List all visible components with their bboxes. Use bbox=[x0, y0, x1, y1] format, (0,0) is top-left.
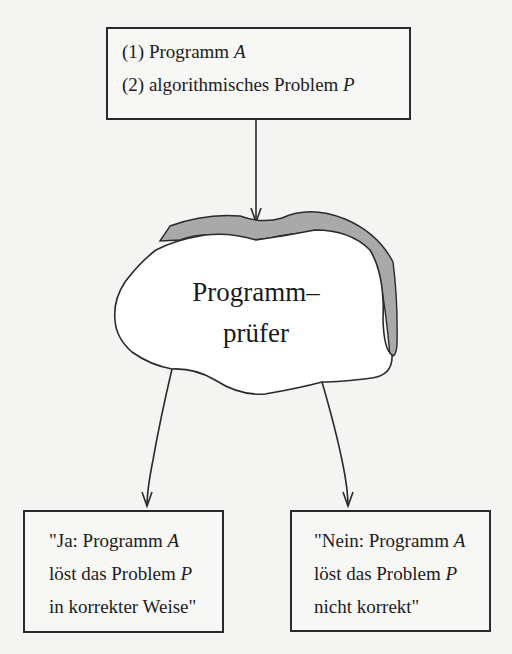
yes-line-2-text: löst das Problem bbox=[49, 563, 180, 584]
input-line-program-text: (1) Programm bbox=[122, 41, 234, 62]
checker-label-line2: prüfer bbox=[150, 313, 362, 353]
no-line-2: löst das Problem P bbox=[314, 557, 489, 590]
no-result-box: "Nein: Programm A löst das Problem P nic… bbox=[290, 510, 491, 632]
variable-p: P bbox=[180, 563, 192, 584]
variable-a: A bbox=[234, 41, 246, 62]
no-line-1-text: "Nein: Programm bbox=[314, 530, 454, 551]
yes-result-box: "Ja: Programm A löst das Problem P in ko… bbox=[23, 510, 224, 633]
input-line-problem: (2) algorithmisches Problem P bbox=[122, 68, 409, 101]
variable-p: P bbox=[445, 563, 457, 584]
arrow-checker-to-no bbox=[322, 382, 353, 506]
no-line-2-text: löst das Problem bbox=[314, 563, 445, 584]
input-line-problem-text: (2) algorithmisches Problem bbox=[122, 74, 343, 95]
no-line-1: "Nein: Programm A bbox=[314, 524, 489, 557]
yes-line-2: löst das Problem P bbox=[49, 557, 222, 590]
variable-p: P bbox=[343, 74, 355, 95]
variable-a: A bbox=[454, 530, 466, 551]
input-box: (1) Programm A (2) algorithmisches Probl… bbox=[106, 27, 411, 120]
yes-line-1-text: "Ja: Programm bbox=[49, 530, 168, 551]
arrow-checker-to-yes bbox=[142, 369, 172, 506]
yes-line-3: in korrekter Weise" bbox=[49, 590, 222, 623]
no-line-3: nicht korrekt" bbox=[314, 590, 489, 623]
checker-label-line1: Programm– bbox=[150, 272, 362, 312]
arrow-input-to-checker bbox=[251, 119, 261, 222]
yes-line-1: "Ja: Programm A bbox=[49, 524, 222, 557]
input-line-program: (1) Programm A bbox=[122, 35, 409, 68]
variable-a: A bbox=[168, 530, 180, 551]
